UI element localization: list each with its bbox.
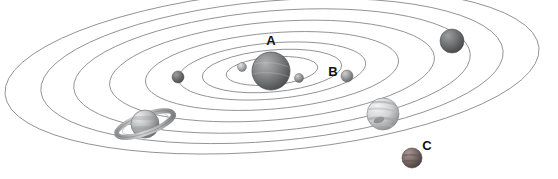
inner-planet-left: [238, 63, 247, 72]
dark-planet-left: [172, 71, 184, 83]
ringed-planet: [114, 105, 177, 142]
solar-system-diagram: A B C: [0, 0, 558, 179]
sun-body: [252, 52, 290, 90]
label-b: B: [328, 64, 337, 79]
inner-planet-right: [295, 74, 304, 83]
label-c: C: [422, 138, 432, 153]
label-a: A: [266, 33, 276, 48]
diagram-canvas: A B C: [0, 0, 558, 179]
outer-gray-planet: [440, 29, 464, 53]
planet-b-body: [341, 70, 353, 82]
planet-c-body: [401, 148, 424, 168]
